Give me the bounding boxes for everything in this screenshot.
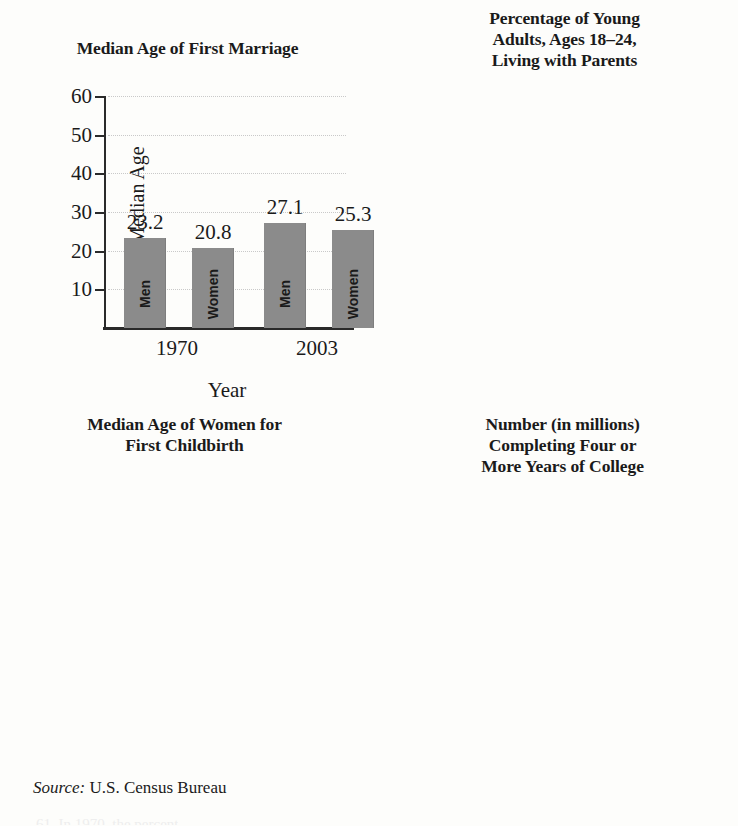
- x-tick-label: 2003: [277, 336, 357, 361]
- chart-title-line: More Years of College: [481, 456, 644, 476]
- source-note: Source: U.S. Census Bureau: [33, 778, 226, 798]
- chart-title: Number (in millions)Completing Four orMo…: [399, 414, 726, 477]
- bar-series-label: Men: [277, 280, 293, 308]
- bar: 20.8Women: [192, 248, 234, 328]
- bar: 23.2Men: [124, 238, 166, 328]
- chart-title: Percentage of YoungAdults, Ages 18–24,Li…: [409, 8, 720, 71]
- chart-title-line: Number (in millions): [485, 414, 639, 434]
- y-axis-tick: [95, 96, 105, 98]
- chart-title-line: Adults, Ages 18–24,: [493, 29, 637, 49]
- source-text: U.S. Census Bureau: [90, 778, 227, 797]
- y-tick-label: 10: [71, 279, 92, 300]
- chart-title-line: First Childbirth: [125, 435, 243, 455]
- bar-value-label: 23.2: [127, 210, 164, 235]
- x-tick-label: 1970: [137, 336, 217, 361]
- plot-area: Median Age Year 102030405060 23.2Men20.8…: [104, 96, 332, 328]
- charts-grid: Median Age of First Marriage Median Age …: [0, 0, 738, 826]
- bar-series-label: Women: [205, 269, 221, 319]
- chart-young-adults-living-with-parents: Percentage of YoungAdults, Ages 18–24,Li…: [369, 0, 738, 400]
- y-tick-label: 60: [71, 86, 92, 107]
- chart-title: Median Age of Women forFirst Childbirth: [20, 414, 349, 456]
- chart-title-line: Living with Parents: [492, 50, 638, 70]
- chart-title-line: Completing Four or: [489, 435, 637, 455]
- y-axis-tick: [95, 212, 105, 214]
- chart-title-line: Median Age of Women for: [87, 414, 282, 434]
- y-tick-label: 30: [71, 202, 92, 223]
- bars: 23.2Men20.8Women27.1Men25.3Women: [106, 96, 346, 328]
- bar-series-label: Men: [137, 280, 153, 308]
- y-tick-label: 20: [71, 240, 92, 261]
- y-axis-tick: [95, 173, 105, 175]
- bar: 25.3Women: [332, 230, 374, 328]
- chart-completing-four-or-more-years-college: Number (in millions)Completing Four orMo…: [369, 400, 738, 785]
- cropped-page-text: 61. In 1970, the percent: [36, 816, 178, 825]
- bar-value-label: 25.3: [335, 202, 372, 227]
- chart-title-line: Percentage of Young: [489, 8, 640, 28]
- chart-median-age-first-marriage: Median Age of First Marriage Median Age …: [0, 0, 369, 400]
- y-axis-tick: [95, 135, 105, 137]
- bar-value-label: 20.8: [195, 220, 232, 245]
- y-axis-tick: [95, 251, 105, 253]
- y-axis-tick: [95, 289, 105, 291]
- chart-title: Median Age of First Marriage: [18, 38, 357, 59]
- y-tick-label: 50: [71, 124, 92, 145]
- y-tick-label: 40: [71, 163, 92, 184]
- bar-series-label: Women: [345, 269, 361, 319]
- bar: 27.1Men: [264, 223, 306, 328]
- chart-median-age-women-first-childbirth: Median Age of Women forFirst Childbirth …: [0, 400, 369, 785]
- source-label: Source:: [33, 778, 85, 797]
- bar-value-label: 27.1: [267, 195, 304, 220]
